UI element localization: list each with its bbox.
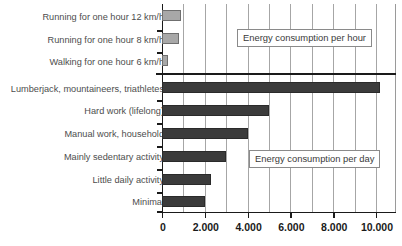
x-axis-label-2000: 2.000: [193, 221, 219, 233]
bar-minimal: [162, 196, 205, 207]
category-label-little-daily: Little daily activity: [0, 175, 164, 185]
x-axis-tick: [162, 213, 163, 218]
bar-hard-work: [162, 105, 269, 116]
category-label-hard-work: Hard work (lifelong): [0, 106, 164, 116]
category-label-minimal: Minimal: [0, 197, 164, 207]
x-axis-tick: [333, 213, 334, 218]
gridline: [376, 4, 377, 213]
bar-running-12: [162, 10, 181, 21]
x-axis-label-6000: 6.000: [278, 221, 304, 233]
x-axis-tick: [248, 213, 249, 218]
category-label-running-8: Running for one hour 8 km/h: [0, 35, 164, 45]
x-axis-label-0: 0: [160, 221, 166, 233]
x-axis-line: [162, 212, 396, 213]
category-label-lumberjack: Lumberjack, mountaineers, triathletes: [0, 84, 164, 94]
x-axis-tick: [205, 213, 206, 218]
x-axis-label-4000: 4.000: [235, 221, 261, 233]
category-label-mainly-sedentary: Mainly sedentary activity: [0, 152, 164, 162]
bar-running-8: [162, 33, 179, 44]
bar-manual-work: [162, 128, 248, 139]
x-axis-tick: [290, 213, 291, 218]
bar-walking-6: [162, 55, 168, 66]
category-label-manual-work: Manual work, household: [0, 129, 164, 139]
bar-little-daily: [162, 174, 211, 185]
category-label-walking-6: Walking for one hour 6 km/h: [0, 57, 164, 67]
x-axis-label-10000: 10.000: [361, 221, 393, 233]
x-axis-label-8000: 8.000: [321, 221, 347, 233]
bar-mainly-sedentary: [162, 151, 226, 162]
x-axis-tick: [376, 213, 377, 218]
annotation-energy-per-day: Energy consumption per day: [249, 150, 380, 168]
annotation-energy-per-hour: Energy consumption per hour: [237, 29, 372, 47]
bar-lumberjack: [162, 82, 380, 93]
category-label-running-12: Running for one hour 12 km/h: [0, 12, 164, 22]
energy-consumption-bar-chart: Running for one hour 12 km/h Running for…: [0, 0, 402, 246]
group-separator-line: [156, 73, 396, 75]
